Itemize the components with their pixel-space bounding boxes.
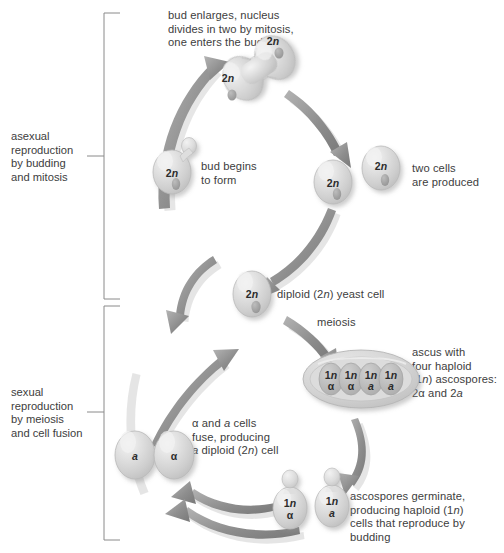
cell-daughter-left bbox=[314, 160, 352, 204]
yeast-life-cycle-diagram: 2n 2n 2n 2n 2n 2n 1n α 1n α 1n a 1n a 1n… bbox=[0, 0, 504, 553]
cell-germinated-alpha bbox=[273, 470, 307, 529]
nucleus-dividing-lower bbox=[228, 90, 237, 101]
cell-fusing-alpha bbox=[154, 431, 194, 479]
cell-fusing-a bbox=[115, 431, 155, 479]
cell-diploid bbox=[233, 271, 271, 317]
nucleus-dividing-upper bbox=[275, 48, 284, 59]
cell-germinated-a bbox=[315, 468, 349, 527]
ascospore-4 bbox=[379, 363, 403, 395]
cells-layer bbox=[0, 0, 504, 553]
cell-budding bbox=[153, 138, 197, 195]
cell-daughter-right bbox=[362, 146, 400, 190]
